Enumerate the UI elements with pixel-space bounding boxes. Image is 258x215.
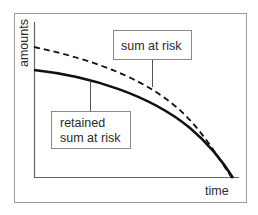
x-axis-label: time xyxy=(205,184,229,198)
y-axis-label: amounts xyxy=(17,19,31,67)
sum-at-risk-label: sum at risk xyxy=(121,39,182,53)
retained-label-line1: retained xyxy=(60,116,105,130)
diagram-canvas: amounts time sum at risk retained sum at… xyxy=(0,0,258,215)
retained-label-line2: sum at risk xyxy=(60,131,121,145)
